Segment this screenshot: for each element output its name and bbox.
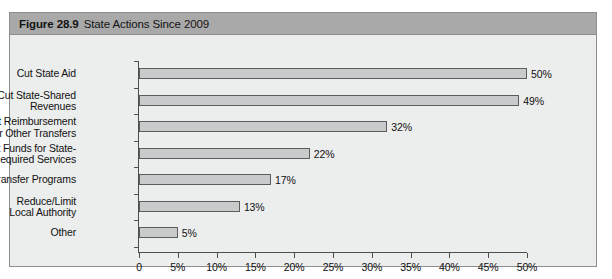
y-axis-tick bbox=[134, 61, 139, 62]
chart-bar-value-label: 5% bbox=[182, 228, 197, 239]
y-axis-tick bbox=[134, 114, 139, 115]
y-axis-tick bbox=[134, 141, 139, 142]
x-axis-tick-label: 15% bbox=[245, 261, 266, 273]
x-axis-tick-label: 5% bbox=[170, 261, 185, 273]
chart-bar-value-label: 22% bbox=[314, 149, 335, 160]
x-axis-tick bbox=[527, 253, 528, 258]
chart-bar-value-label: 32% bbox=[391, 122, 412, 133]
chart-bar bbox=[139, 95, 519, 106]
x-axis-tick bbox=[372, 253, 373, 258]
y-axis-tick bbox=[134, 194, 139, 195]
x-axis-tick-label: 20% bbox=[284, 261, 305, 273]
x-axis-tick bbox=[139, 253, 140, 258]
x-axis-tick bbox=[178, 253, 179, 258]
chart-bar bbox=[139, 227, 178, 238]
chart-bar-value-label: 50% bbox=[531, 69, 552, 80]
y-axis-category-label-text: Other bbox=[0, 227, 76, 239]
y-axis-category-label-text: Cut Funds for State- Required Services bbox=[0, 142, 76, 165]
x-axis-tick-label: 50% bbox=[517, 261, 538, 273]
y-axis-tick bbox=[134, 247, 139, 248]
y-axis-category-label-text: Cut State-Shared Revenues bbox=[0, 89, 76, 112]
chart-category-row: Other5% bbox=[10, 220, 596, 246]
chart-bar-value-label: 13% bbox=[244, 202, 265, 213]
x-axis-tick bbox=[449, 253, 450, 258]
chart-bar-value-label: 49% bbox=[523, 96, 544, 107]
chart-category-row: Cut Reimbursement or Other Transfers32% bbox=[10, 114, 596, 140]
x-axis-tick bbox=[217, 253, 218, 258]
y-axis-category-label-text: Cut Reimbursement or Other Transfers bbox=[0, 116, 76, 139]
figure-container: Figure 28.9 State Actions Since 2009 Cut… bbox=[9, 12, 597, 267]
chart-category-row: Cut State-Shared Revenues49% bbox=[10, 88, 596, 114]
x-axis-tick bbox=[333, 253, 334, 258]
figure-title: State Actions Since 2009 bbox=[84, 18, 209, 30]
x-axis-tick bbox=[411, 253, 412, 258]
x-axis-tick-label: 45% bbox=[478, 261, 499, 273]
y-axis-tick bbox=[134, 167, 139, 168]
y-axis-tick bbox=[134, 220, 139, 221]
x-axis-tick-label: 0 bbox=[136, 261, 142, 273]
chart-bar bbox=[139, 68, 527, 79]
chart-bar bbox=[139, 201, 240, 212]
x-axis-tick-label: 10% bbox=[206, 261, 227, 273]
x-axis-tick bbox=[294, 253, 295, 258]
chart-category-row: Cut Funds for State- Required Services22… bbox=[10, 141, 596, 167]
y-axis-category-label-text: Transfer Programs bbox=[0, 174, 76, 186]
figure-number: Figure 28.9 bbox=[19, 18, 79, 30]
chart-bar bbox=[139, 148, 310, 159]
x-axis-tick-label: 40% bbox=[439, 261, 460, 273]
y-axis-category-label-text: Cut State Aid bbox=[0, 68, 76, 80]
x-axis-tick-label: 25% bbox=[323, 261, 344, 273]
chart-plot-area: Cut State Aid50%Cut State-Shared Revenue… bbox=[10, 35, 596, 267]
x-axis-tick-label: 30% bbox=[361, 261, 382, 273]
chart-category-row: Reduce/Limit Local Authority13% bbox=[10, 194, 596, 220]
chart-bar bbox=[139, 174, 271, 185]
x-axis-tick bbox=[255, 253, 256, 258]
chart-bar-value-label: 17% bbox=[275, 175, 296, 186]
figure-title-bar: Figure 28.9 State Actions Since 2009 bbox=[10, 13, 596, 35]
chart-category-row: Cut State Aid50% bbox=[10, 61, 596, 87]
chart-bar bbox=[139, 121, 387, 132]
x-axis-tick-label: 35% bbox=[400, 261, 421, 273]
y-axis-category-label-text: Reduce/Limit Local Authority bbox=[0, 195, 76, 218]
chart-category-row: Transfer Programs17% bbox=[10, 167, 596, 193]
y-axis-tick bbox=[134, 88, 139, 89]
x-axis-tick bbox=[488, 253, 489, 258]
